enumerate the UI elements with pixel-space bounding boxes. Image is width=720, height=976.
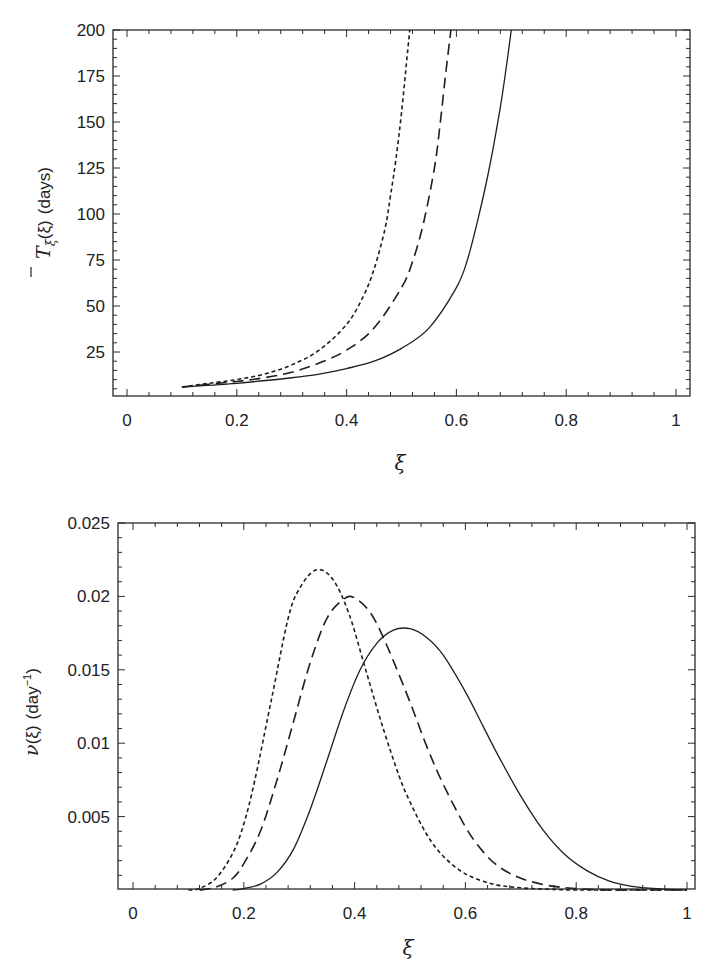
y-tick-label: 150: [77, 113, 105, 132]
curve-solid: [233, 628, 687, 890]
svg-text:Tξ(ξ)(days): Tξ(ξ)(days): [32, 167, 58, 259]
figure: 00.20.40.60.81255075100125150175200 ξ Tξ…: [0, 0, 720, 976]
x-tick-label: 0.8: [554, 411, 578, 430]
plot-frame: [113, 30, 690, 396]
y-tick-label: 0.02: [77, 587, 110, 606]
axis-ticks: [118, 523, 695, 889]
curve-long-dashed: [182, 30, 451, 387]
x-tick-label: 0.6: [454, 904, 478, 923]
bottom-chart: 00.20.40.60.810.0050.010.0150.020.025 ξ …: [20, 514, 695, 960]
x-tick-label: 0.2: [232, 904, 256, 923]
x-tick-label: 0: [128, 904, 137, 923]
curve-solid: [182, 30, 511, 387]
axis-ticks: [113, 30, 690, 396]
y-tick-label: 125: [77, 159, 105, 178]
curve-long-dashed: [199, 596, 687, 890]
x-tick-label: 0.2: [225, 411, 249, 430]
y-tick-label: 0.005: [67, 808, 110, 827]
x-tick-label: 0.4: [343, 904, 367, 923]
x-tick-label: 0: [122, 411, 131, 430]
x-axis-title: ξ: [402, 936, 414, 960]
plot-frame: [118, 523, 695, 889]
x-tick-label: 1: [671, 411, 680, 430]
y-tick-label: 50: [86, 297, 105, 316]
svg-text:ν(ξ)(day−1): ν(ξ)(day−1): [20, 668, 42, 756]
x-tick-label: 0.6: [445, 411, 469, 430]
x-tick-label: 0.8: [564, 904, 588, 923]
y-tick-label: 175: [77, 67, 105, 86]
y-tick-label: 100: [77, 205, 105, 224]
y-axis-title: Tξ(ξ)(days): [31, 167, 58, 277]
y-tick-label: 25: [86, 343, 105, 362]
y-tick-label: 200: [77, 21, 105, 40]
tick-labels: 00.20.40.60.81255075100125150175200: [77, 21, 681, 430]
top-chart: 00.20.40.60.81255075100125150175200 ξ Tξ…: [31, 21, 690, 475]
data-curves: [188, 570, 687, 891]
y-axis-title: ν(ξ)(day−1): [20, 668, 42, 756]
y-tick-label: 0.015: [67, 661, 110, 680]
x-tick-label: 0.4: [335, 411, 359, 430]
data-curves: [182, 30, 511, 387]
y-tick-label: 75: [86, 251, 105, 270]
curve-short-dashed: [188, 570, 687, 891]
x-tick-label: 1: [682, 904, 691, 923]
y-tick-label: 0.025: [67, 514, 110, 533]
y-tick-label: 0.01: [77, 734, 110, 753]
curve-short-dashed: [182, 30, 410, 387]
x-axis-title: ξ: [394, 451, 406, 475]
